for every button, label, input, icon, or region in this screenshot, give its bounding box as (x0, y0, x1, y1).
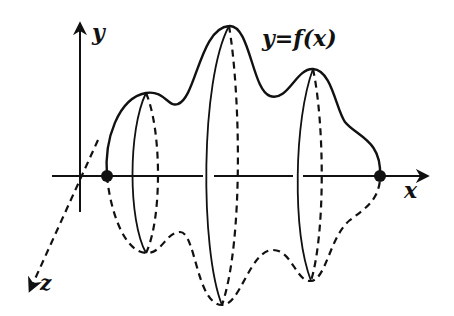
cross-section-1 (133, 93, 159, 253)
y-axis-label: y (91, 19, 107, 45)
x-axis-label: x (403, 177, 418, 203)
z-axis-label: z (39, 271, 52, 295)
right-endpoint-dot (374, 170, 386, 182)
cross-section-2 (206, 26, 238, 305)
y-axis: y (80, 19, 107, 212)
surface-of-revolution-diagram: y x z y=f(x) (0, 0, 454, 316)
curve-label: y=f(x) (261, 25, 337, 51)
function-curve (107, 26, 381, 176)
cross-section-back-edge (222, 26, 238, 305)
z-axis-line (30, 140, 98, 290)
z-axis: z (30, 140, 98, 295)
left-endpoint-dot (101, 170, 113, 182)
cross-section-front-edge (206, 26, 229, 305)
cross-section-front-edge (133, 93, 147, 253)
mirrored-curve-dashed (107, 176, 380, 305)
cross-section-back-edge (146, 93, 158, 253)
